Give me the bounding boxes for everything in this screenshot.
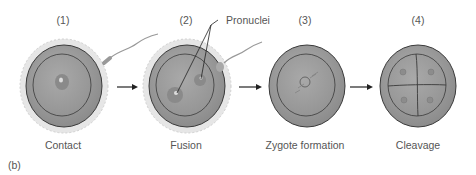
stage-2-egg	[143, 20, 262, 133]
pronuclei-callout: Pronuclei	[226, 14, 270, 26]
stage-4-caption: Cleavage	[396, 139, 440, 151]
arrow-1	[117, 84, 138, 90]
arrow-3	[350, 84, 373, 90]
stage-3-caption: Zygote formation	[266, 139, 345, 151]
stage-1-number: (1)	[57, 14, 70, 26]
stage-4-number: (4)	[412, 14, 425, 26]
stage-2-number: (2)	[180, 14, 193, 26]
stage-1-caption: Contact	[45, 139, 81, 151]
stage-4-cleavage	[380, 45, 456, 127]
stage-2-caption: Fusion	[170, 139, 202, 151]
panel-label: (b)	[8, 159, 21, 171]
stage-3-zygote	[269, 45, 345, 127]
arrow-2	[239, 84, 262, 90]
stage-3-number: (3)	[299, 14, 312, 26]
stage-1-egg	[20, 34, 158, 133]
